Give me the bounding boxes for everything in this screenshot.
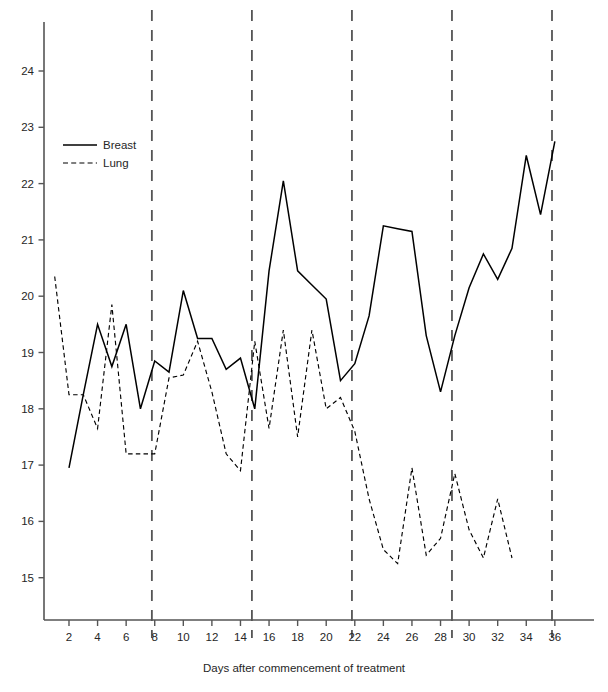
y-tick-label-15: 15 xyxy=(21,572,34,584)
vertical-marker-lines xyxy=(152,10,552,638)
y-tick-label-22: 22 xyxy=(21,178,34,190)
series-line-lung xyxy=(55,276,512,563)
x-tick-label-28: 28 xyxy=(434,631,447,643)
x-tick-label-2: 2 xyxy=(66,631,72,643)
x-tick-label-30: 30 xyxy=(463,631,476,643)
x-tick-label-16: 16 xyxy=(263,631,276,643)
x-tick-label-4: 4 xyxy=(94,631,101,643)
x-tick-label-10: 10 xyxy=(177,631,190,643)
x-tick-label-32: 32 xyxy=(491,631,504,643)
x-tick-label-36: 36 xyxy=(548,631,561,643)
x-tick-label-34: 34 xyxy=(520,631,533,643)
y-tick-label-24: 24 xyxy=(21,65,34,77)
legend-label-breast: Breast xyxy=(103,139,137,151)
y-axis-ticks: 15161718192021222324 xyxy=(21,65,44,584)
data-series-group xyxy=(55,141,555,563)
x-tick-label-24: 24 xyxy=(377,631,390,643)
y-tick-label-23: 23 xyxy=(21,121,34,133)
x-tick-label-20: 20 xyxy=(320,631,333,643)
line-chart: 15161718192021222324 2468101214161820222… xyxy=(0,0,608,692)
x-axis-title: Days after commencement of treatment xyxy=(203,662,406,674)
x-tick-label-12: 12 xyxy=(205,631,218,643)
x-tick-label-22: 22 xyxy=(348,631,361,643)
chart-legend: Breast Lung xyxy=(63,139,137,169)
legend-label-lung: Lung xyxy=(103,157,129,169)
series-line-breast xyxy=(69,141,555,468)
y-tick-label-21: 21 xyxy=(21,234,34,246)
x-tick-label-26: 26 xyxy=(406,631,419,643)
x-axis-ticks: 24681012141618202224262830323436 xyxy=(66,620,561,643)
x-tick-label-6: 6 xyxy=(123,631,129,643)
y-axis: 15161718192021222324 xyxy=(21,22,44,620)
x-tick-label-18: 18 xyxy=(291,631,304,643)
x-tick-label-8: 8 xyxy=(152,631,158,643)
y-tick-label-20: 20 xyxy=(21,290,34,302)
x-axis: 24681012141618202224262830323436 xyxy=(44,620,594,643)
x-tick-label-14: 14 xyxy=(234,631,247,643)
chart-figure: 15161718192021222324 2468101214161820222… xyxy=(0,0,608,692)
y-tick-label-16: 16 xyxy=(21,515,34,527)
y-tick-label-19: 19 xyxy=(21,347,34,359)
y-tick-label-17: 17 xyxy=(21,459,34,471)
y-tick-label-18: 18 xyxy=(21,403,34,415)
